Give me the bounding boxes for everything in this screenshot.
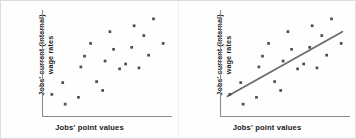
- data-point: [308, 46, 311, 49]
- data-point: [130, 46, 133, 49]
- data-point: [311, 24, 314, 27]
- scatter-svg-left: [41, 10, 172, 118]
- data-point: [101, 89, 104, 92]
- data-point: [287, 30, 290, 33]
- data-points-right: [228, 18, 342, 106]
- data-point: [228, 93, 231, 96]
- data-point: [267, 42, 270, 45]
- data-point: [302, 63, 305, 66]
- data-point: [138, 67, 141, 70]
- data-point: [255, 96, 258, 99]
- data-point: [239, 81, 242, 84]
- data-point: [316, 67, 319, 70]
- data-point: [77, 96, 80, 99]
- scatterplot-figure: Jobs' current (internal) wage rates Jobs…: [0, 0, 356, 139]
- regression-trendline: [227, 32, 342, 97]
- data-point: [273, 80, 276, 83]
- chart-panel-without-trendline: Jobs' current (internal) wage rates Jobs…: [1, 1, 178, 138]
- data-point: [109, 30, 112, 33]
- data-point: [133, 24, 136, 27]
- data-point: [83, 55, 86, 58]
- data-point: [261, 55, 264, 58]
- data-point: [142, 34, 145, 37]
- x-axis-label: Jobs' point values: [179, 123, 355, 132]
- data-point: [147, 54, 150, 57]
- data-point: [124, 63, 127, 66]
- axis-lines: [43, 10, 173, 117]
- data-point: [64, 103, 67, 106]
- data-point: [242, 103, 245, 106]
- data-point: [320, 34, 323, 37]
- x-axis-label: Jobs' point values: [1, 123, 178, 132]
- data-point: [340, 42, 343, 45]
- data-point: [61, 81, 64, 84]
- data-point: [296, 68, 299, 71]
- data-point: [325, 54, 328, 57]
- data-point: [104, 60, 107, 63]
- scatter-svg-right: [219, 10, 350, 118]
- data-point: [330, 18, 333, 21]
- data-point: [282, 60, 285, 63]
- data-point: [80, 66, 83, 69]
- data-point: [112, 48, 115, 51]
- data-point: [258, 66, 261, 69]
- plot-area-left: [41, 10, 172, 118]
- data-point: [50, 93, 53, 96]
- data-point: [118, 68, 121, 71]
- chart-panel-with-trendline: Jobs' current (internal) wage rates Jobs…: [178, 1, 355, 138]
- data-point: [279, 89, 282, 92]
- data-point: [290, 48, 293, 51]
- plot-area-right: [219, 10, 350, 118]
- data-point: [95, 80, 98, 83]
- data-point: [162, 42, 165, 45]
- data-point: [89, 42, 92, 45]
- data-point: [152, 18, 155, 21]
- data-points-left: [50, 18, 164, 106]
